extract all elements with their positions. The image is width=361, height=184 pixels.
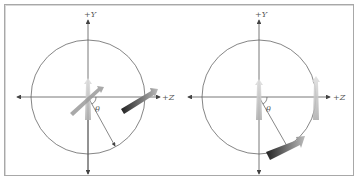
y-axis-label: +Y xyxy=(255,10,268,19)
theta-label: θ xyxy=(266,105,271,114)
y-axis-label: +Y xyxy=(84,10,97,19)
radius-line xyxy=(259,97,287,146)
z-axis-label: +Z xyxy=(333,93,346,102)
left-panel: +Y +Z θ xyxy=(17,10,175,174)
circle-arrow-z-icon xyxy=(121,88,158,114)
right-panel: +Y +Z θ xyxy=(188,10,346,174)
origin-arrow-upright-icon xyxy=(255,79,263,120)
circle-arrow-z-upright-icon xyxy=(312,76,320,120)
theta-label: θ xyxy=(95,105,100,114)
rotation-diagram: +Y +Z θ +Y +Z θ xyxy=(0,0,361,184)
z-axis-label: +Z xyxy=(162,93,175,102)
radius-line xyxy=(88,97,115,146)
theta-arc xyxy=(92,97,96,104)
circle-arrow-theta-icon xyxy=(266,136,305,160)
theta-arc xyxy=(263,97,267,104)
